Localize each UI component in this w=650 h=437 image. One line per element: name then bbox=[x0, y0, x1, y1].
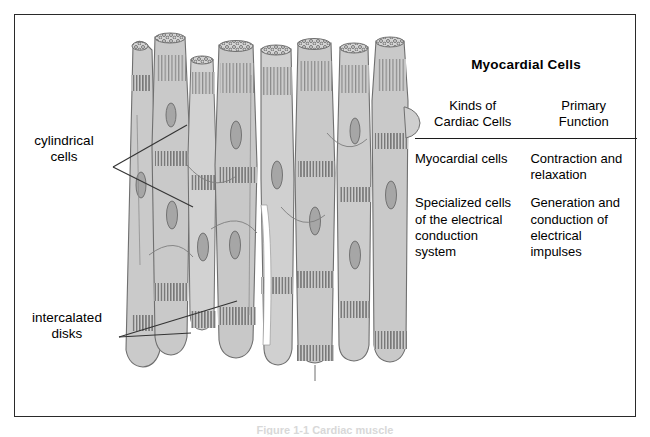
label-cylindrical-cells-line2: cells bbox=[21, 149, 107, 165]
figure-frame: cylindrical cells intercalated disks Myo… bbox=[14, 14, 636, 417]
muscle-fiber bbox=[152, 33, 190, 355]
table-cell-kind: Specialized cells of the electrical cond… bbox=[415, 183, 530, 260]
muscle-fiber bbox=[372, 37, 420, 362]
figure-caption: Figure 1-1 Cardiac muscle bbox=[0, 424, 650, 435]
label-intercalated-disks-line1: intercalated bbox=[17, 310, 117, 326]
table-header-function-line1: Primary bbox=[530, 98, 637, 114]
table-header-function: Primary Function bbox=[530, 98, 637, 138]
muscle-fiber bbox=[215, 41, 257, 359]
table-cell-function: Contraction and relaxation bbox=[530, 139, 637, 184]
table-header-row: Kinds of Cardiac Cells Primary Function bbox=[415, 98, 637, 138]
label-intercalated-disks-line2: disks bbox=[17, 326, 117, 342]
table-header-kinds-line2: Cardiac Cells bbox=[415, 114, 530, 130]
muscle-fiber bbox=[337, 43, 371, 361]
table-header-kinds: Kinds of Cardiac Cells bbox=[415, 98, 530, 138]
label-cylindrical-cells-line1: cylindrical bbox=[21, 133, 107, 149]
muscle-fiber-group bbox=[126, 33, 420, 381]
table-row: Myocardial cells Contraction and relaxat… bbox=[415, 139, 637, 184]
muscle-fiber bbox=[188, 56, 216, 330]
table-cell-function: Generation and conduction of electrical … bbox=[530, 183, 637, 260]
table-row: Specialized cells of the electrical cond… bbox=[415, 183, 637, 260]
label-intercalated-disks: intercalated disks bbox=[17, 310, 117, 343]
myocardial-cells-table: Kinds of Cardiac Cells Primary Function … bbox=[415, 98, 637, 260]
cardiac-muscle-illustration bbox=[15, 15, 435, 415]
table-header-function-line2: Function bbox=[530, 114, 637, 130]
muscle-fiber bbox=[295, 39, 335, 382]
label-cylindrical-cells: cylindrical cells bbox=[21, 133, 107, 166]
muscle-fiber bbox=[261, 45, 294, 365]
table-cell-kind: Myocardial cells bbox=[415, 139, 530, 184]
myocardial-cells-table-panel: Myocardial Cells Kinds of Cardiac Cells … bbox=[415, 57, 637, 260]
table-title: Myocardial Cells bbox=[415, 57, 637, 72]
table-header-kinds-line1: Kinds of bbox=[415, 98, 530, 114]
